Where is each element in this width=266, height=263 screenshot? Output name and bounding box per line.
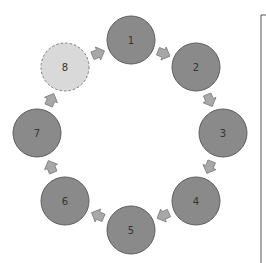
- cycle-diagram: 12345678: [0, 0, 266, 263]
- arrow-8-to-1-icon: [90, 44, 107, 62]
- node-2: 2: [172, 43, 220, 91]
- node-label: 2: [193, 62, 199, 73]
- node-label: 1: [128, 35, 134, 46]
- node-5: 5: [107, 206, 155, 254]
- node-8: 8: [41, 43, 89, 91]
- arrow-3-to-4-icon: [200, 159, 218, 176]
- node-1: 1: [107, 16, 155, 64]
- node-label: 8: [62, 62, 68, 73]
- node-label: 6: [62, 196, 68, 207]
- node-label: 5: [128, 225, 134, 236]
- cycle-nodes: 12345678: [13, 16, 247, 254]
- arrow-7-to-8-icon: [42, 91, 60, 108]
- node-label: 3: [220, 128, 226, 139]
- arrow-4-to-5-icon: [154, 207, 172, 225]
- right-bracket: [261, 15, 266, 263]
- arrow-2-to-3-icon: [201, 92, 219, 109]
- node-6: 6: [41, 177, 89, 225]
- node-3: 3: [199, 109, 247, 157]
- arrow-5-to-6-icon: [89, 206, 107, 224]
- arrow-1-to-2-icon: [155, 45, 172, 63]
- node-label: 7: [34, 128, 40, 139]
- arrow-6-to-7-icon: [42, 158, 60, 175]
- node-label: 4: [193, 196, 199, 207]
- node-4: 4: [172, 177, 220, 225]
- node-7: 7: [13, 109, 61, 157]
